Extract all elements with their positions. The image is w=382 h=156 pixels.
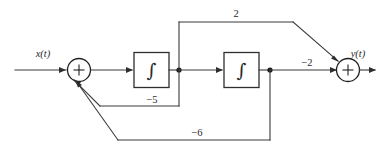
- output-wire: [360, 67, 377, 73]
- gain-label-feedback-inner: −5: [146, 94, 157, 105]
- integral-sign-icon: ∫: [147, 59, 157, 81]
- integrator-1-block: ∫: [134, 53, 169, 88]
- output-signal-label: y(t): [350, 48, 366, 60]
- gain-label-feedforward-top: 2: [233, 8, 238, 19]
- input-signal-label: x(t): [35, 48, 51, 60]
- wire-summer-to-integrator1: [91, 67, 134, 73]
- input-wire: [15, 67, 66, 73]
- block-diagram-canvas: ∫ ∫: [0, 0, 382, 156]
- integrator-2-block: ∫: [224, 53, 259, 88]
- gain-label-feedback-outer: −6: [191, 127, 202, 138]
- summer-output: [337, 59, 360, 82]
- summer-input: [68, 59, 91, 82]
- wire-junction1-to-integrator2: [179, 67, 223, 73]
- signal-flow-diagram: ∫ ∫: [0, 0, 382, 156]
- integral-sign-icon: ∫: [237, 59, 247, 81]
- gain-label-output: −2: [301, 57, 312, 68]
